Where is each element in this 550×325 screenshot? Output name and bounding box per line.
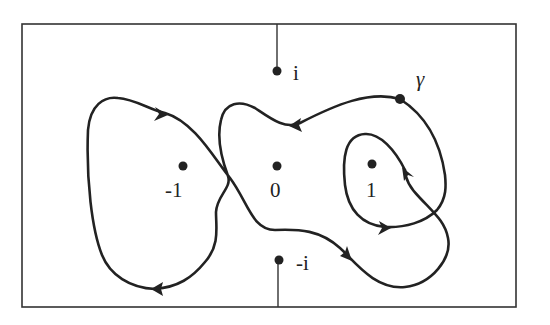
label-i: i — [293, 61, 299, 85]
label-gamma: γ — [416, 67, 425, 91]
point-minus-1 — [179, 162, 188, 171]
contour-diagram: i -1 0 1 -i γ — [0, 0, 550, 325]
point-i — [273, 67, 282, 76]
point-minus-i — [275, 256, 284, 265]
point-1 — [368, 160, 377, 169]
curve-gamma — [88, 96, 449, 289]
label-minus-i: -i — [296, 251, 309, 275]
curve-start-point — [395, 94, 405, 104]
label-minus-1: -1 — [165, 178, 183, 202]
label-1: 1 — [366, 178, 377, 202]
label-0: 0 — [270, 178, 281, 202]
point-0 — [273, 162, 282, 171]
